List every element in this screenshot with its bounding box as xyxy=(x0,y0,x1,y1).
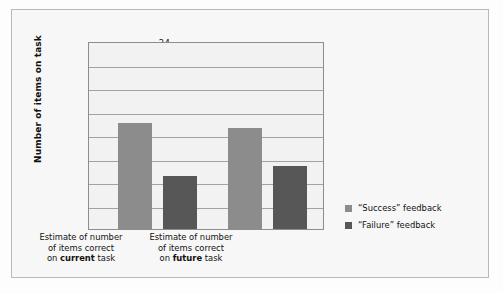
y-axis-title: Number of items on task xyxy=(33,35,43,163)
x-category-current-line1: Estimate of number xyxy=(17,232,145,243)
x-category-current: Estimate of number of items correct on c… xyxy=(17,232,145,264)
legend-swatch-success-icon xyxy=(345,205,352,212)
x-category-future-line2: of items correct xyxy=(127,243,255,254)
gridline-18 xyxy=(89,114,323,115)
legend-item-success: “Success” feedback xyxy=(345,201,442,215)
legend-label-failure: “Failure” feedback xyxy=(358,220,435,230)
x-category-future-post: task xyxy=(202,253,222,263)
figure-frame: Number of items on task 24 22 20 18 16 1… xyxy=(11,9,489,278)
legend-label-success: “Success” feedback xyxy=(358,203,442,213)
bar-failure-future xyxy=(273,166,307,230)
x-category-current-line3: on current task xyxy=(17,253,145,264)
x-category-future-line1: Estimate of number xyxy=(127,232,255,243)
x-category-future: Estimate of number of items correct on f… xyxy=(127,232,255,264)
legend-item-failure: “Failure” feedback xyxy=(345,218,442,232)
plot-area xyxy=(88,42,324,230)
x-category-current-emphasis: current xyxy=(60,253,95,263)
figure: Number of items on task 24 22 20 18 16 1… xyxy=(0,0,503,294)
x-category-future-emphasis: future xyxy=(173,253,202,263)
gridline-20 xyxy=(89,90,323,91)
x-category-current-post: task xyxy=(95,253,115,263)
x-category-future-pre: on xyxy=(160,253,173,263)
gridline-22 xyxy=(89,67,323,68)
legend-swatch-failure-icon xyxy=(345,222,352,229)
bar-failure-current xyxy=(163,176,197,229)
x-category-current-line2: of items correct xyxy=(17,243,145,254)
legend: “Success” feedback “Failure” feedback xyxy=(345,201,442,235)
x-category-future-line3: on future task xyxy=(127,253,255,264)
bar-success-current xyxy=(118,123,152,229)
x-category-current-pre: on xyxy=(47,253,60,263)
bar-success-future xyxy=(228,128,262,229)
